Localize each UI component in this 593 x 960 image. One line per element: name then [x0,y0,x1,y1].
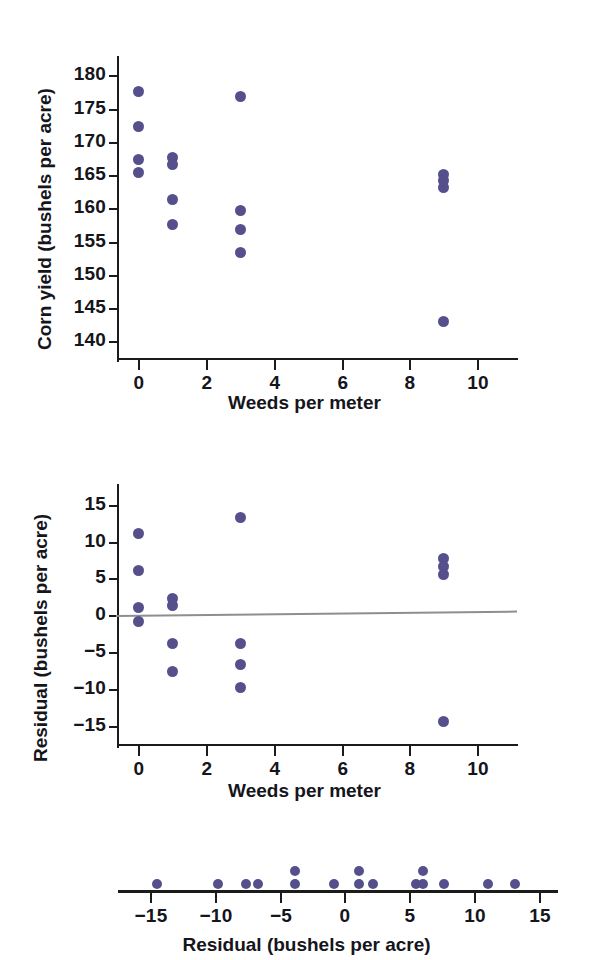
residual-dotplot-panel: Residual (bushels per acre) −15−10−50510… [0,838,593,960]
x-axis-tick-label: 4 [248,758,302,780]
data-point [133,528,144,539]
x-axis-line [118,890,558,893]
data-point [133,86,144,97]
x-axis-tick-label: 0 [316,905,374,927]
y-axis-tick [109,341,118,343]
y-axis-tick-label: 180 [50,63,106,85]
y-axis-tick [109,109,118,111]
x-axis-tick [342,360,344,370]
data-point [235,91,246,102]
y-axis-title: Residual (bushels per acre) [30,514,52,762]
x-axis-tick-label: 0 [112,372,166,394]
data-point [290,879,300,889]
y-axis-tick-label: 170 [50,130,106,152]
data-point [418,866,428,876]
data-point [438,716,449,727]
y-axis-tick-label: 5 [50,566,106,588]
x-axis-tick [409,360,411,370]
data-point [133,121,144,132]
x-axis-tick [274,746,276,756]
data-point [167,638,178,649]
data-point [438,569,449,580]
y-axis-tick-label: 15 [50,493,106,515]
y-axis-tick-label: 140 [50,329,106,351]
x-axis-tick [206,746,208,756]
y-axis-tick [109,308,118,310]
data-point [235,512,246,523]
y-axis-tick-label: 150 [50,263,106,285]
x-axis-title: Weeds per meter [8,780,593,802]
x-axis-tick-label: −10 [187,905,245,927]
data-point [354,866,364,876]
data-point [235,682,246,693]
data-point [510,879,520,889]
data-point [438,182,449,193]
data-point [133,616,144,627]
x-axis-line [117,744,518,746]
y-axis-tick [109,505,118,507]
data-point [167,219,178,230]
y-axis-tick-label: 160 [50,196,106,218]
y-axis-tick-label: 10 [50,530,106,552]
data-point [235,638,246,649]
x-axis-tick [474,893,476,903]
x-axis-tick-label: 6 [316,372,370,394]
x-axis-tick-label: 2 [180,758,234,780]
x-axis-tick [539,893,541,903]
data-point [167,194,178,205]
y-axis-tick [109,242,118,244]
data-point [241,879,251,889]
data-point [167,159,178,170]
y-axis-tick [109,275,118,277]
data-point [235,247,246,258]
y-axis-tick [109,142,118,144]
y-axis-tick [109,689,118,691]
y-axis-tick-label: 155 [50,230,106,252]
x-axis-tick-label: 10 [446,905,504,927]
y-axis-tick [109,75,118,77]
y-axis-tick-label: 0 [50,603,106,625]
figure-root: Corn yield (bushels per acre) Weeds per … [0,0,593,960]
data-point [438,316,449,327]
x-axis-title: Residual (bushels per acre) [10,934,593,956]
y-axis-tick [109,726,118,728]
x-axis-tick-label: 15 [511,905,569,927]
x-axis-tick [342,746,344,756]
reference-line [116,611,517,617]
data-point [368,879,378,889]
x-axis-tick-label: 6 [316,758,370,780]
data-point [235,224,246,235]
data-point [290,866,300,876]
y-axis-tick [109,208,118,210]
x-axis-tick [138,746,140,756]
y-axis-tick-label: 145 [50,296,106,318]
x-axis-tick [274,360,276,370]
data-point [418,879,428,889]
residual-scatter-panel: Residual (bushels per acre) Weeds per me… [0,432,593,832]
data-point [133,602,144,613]
data-point [483,879,493,889]
y-axis-tick [109,175,118,177]
x-axis-tick-label: −15 [122,905,180,927]
x-axis-tick [215,893,217,903]
y-axis-tick-label: 165 [50,163,106,185]
x-axis-line [117,358,518,360]
data-point [167,600,178,611]
data-point [235,659,246,670]
x-axis-tick-label: −5 [252,905,310,927]
x-axis-tick-label: 2 [180,372,234,394]
data-point [133,565,144,576]
x-axis-tick-label: 8 [383,372,437,394]
y-axis-tick [109,542,118,544]
corn-yield-scatter-panel: Corn yield (bushels per acre) Weeds per … [0,0,593,420]
x-axis-tick [409,893,411,903]
y-axis-tick [109,578,118,580]
y-axis-tick-label: −15 [50,714,106,736]
data-point [329,879,339,889]
x-axis-tick [477,746,479,756]
y-axis-tick-label: 175 [50,97,106,119]
y-axis-tick-label: −5 [50,640,106,662]
x-axis-tick [150,893,152,903]
data-point [133,167,144,178]
data-point [253,879,263,889]
